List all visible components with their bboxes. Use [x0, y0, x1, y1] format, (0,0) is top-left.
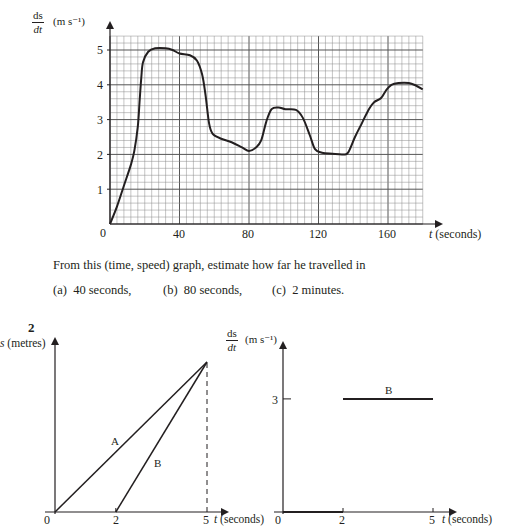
g3-y-axis-label-fraction: ds dt	[226, 328, 238, 353]
g2-x-tick-2: 2	[113, 514, 119, 526]
g2-x-tick-5: 5	[203, 514, 209, 526]
g1-y-axis-label-fraction: ds dt	[32, 10, 44, 35]
g1-y-axis-unit: (m s⁻¹)	[53, 16, 85, 27]
g3-y-num: ds	[226, 328, 238, 341]
g2-y-unit: (metres)	[7, 337, 45, 349]
g3-origin-label: 0	[275, 514, 281, 526]
part-c-label: (c)	[272, 283, 286, 297]
g2-line-label-b: B	[154, 458, 161, 469]
g2-line-label-a: A	[111, 436, 119, 447]
part-c-text: 2 minutes.	[292, 283, 344, 297]
g3-line-label-b: B	[385, 385, 392, 396]
part-b-label: (b)	[163, 283, 178, 297]
part-a-label: (a)	[53, 283, 67, 297]
g1-x-tick-40: 40	[173, 228, 185, 240]
g1-origin-label: 0	[100, 227, 106, 239]
g2-y-var: s	[0, 337, 4, 349]
g2-x-axis-label: t (seconds)	[214, 514, 264, 526]
speed-curve	[110, 48, 423, 224]
part-b-text: 80 seconds,	[184, 283, 242, 297]
g3-x-tick-2: 2	[339, 514, 345, 526]
g3-x-axis-label: t (seconds)	[442, 514, 492, 526]
g1-x-unit: (seconds)	[435, 227, 481, 241]
question-part-a: (a) 40 seconds,	[53, 284, 131, 297]
g1-y-tick-2: 2	[97, 149, 103, 161]
g3-y-axis-unit: (m s⁻¹)	[245, 334, 277, 345]
g2-x-unit: (seconds)	[220, 513, 264, 525]
g2-line-b	[116, 362, 207, 512]
g1-x-tick-120: 120	[309, 228, 327, 240]
question-part-c: (c) 2 minutes.	[272, 284, 344, 297]
g1-y-axis-arrow-icon	[106, 21, 114, 29]
g2-y-axis-label: s (metres)	[0, 338, 46, 350]
g1-y-tick-5: 5	[97, 44, 103, 56]
g1-x-tick-80: 80	[242, 228, 254, 240]
g1-y-den: dt	[32, 23, 44, 35]
question-prompt: From this (time, speed) graph, estimate …	[53, 259, 365, 272]
g2-x-var: t	[214, 513, 217, 525]
g1-x-tick-160: 160	[378, 228, 396, 240]
g1-y-num: ds	[32, 10, 44, 23]
g2-line-a	[55, 362, 207, 512]
g2-y-axis-arrow-icon	[51, 337, 59, 345]
g1-y-tick-4: 4	[97, 79, 103, 91]
question-part-b: (b) 80 seconds,	[163, 284, 242, 297]
g3-y-den: dt	[226, 341, 238, 353]
question-2-number: 2	[28, 321, 35, 334]
g1-y-tick-1: 1	[97, 184, 103, 196]
g3-y-axis-arrow-icon	[279, 341, 287, 349]
g3-y-tick-3: 3	[272, 394, 278, 406]
part-a-text: 40 seconds,	[73, 283, 131, 297]
g3-x-unit: (seconds)	[448, 513, 492, 525]
g3-x-var: t	[442, 513, 445, 525]
g1-y-tick-3: 3	[97, 114, 103, 126]
g2-origin-label: 0	[44, 514, 50, 526]
g1-x-axis-label: t (seconds)	[429, 228, 481, 240]
g1-x-var: t	[429, 227, 432, 241]
g3-x-tick-5: 5	[429, 514, 435, 526]
